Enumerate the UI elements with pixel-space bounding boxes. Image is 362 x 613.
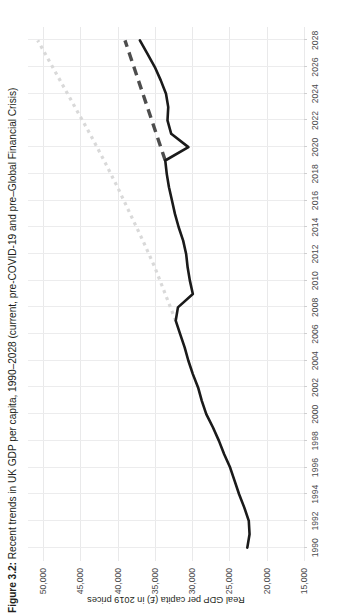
- x-tick-label: 2006: [310, 325, 320, 344]
- x-tick-mark: [304, 333, 307, 334]
- y-tick-label: 40,000: [113, 568, 123, 594]
- x-tick-mark: [304, 360, 307, 361]
- x-tick-label: 1998: [310, 431, 320, 450]
- y-axis-label: Real GDP per capita (£) in 2019 prices: [28, 593, 304, 607]
- x-tick-label: 2000: [310, 405, 320, 424]
- data-series: [28, 27, 304, 561]
- x-tick-mark: [304, 547, 307, 548]
- x-tick-label: 2028: [310, 31, 320, 50]
- x-tick-label: 2018: [310, 164, 320, 183]
- y-tick-label: 45,000: [75, 568, 85, 594]
- x-tick-mark: [304, 119, 307, 120]
- x-tick-label: 1996: [310, 458, 320, 477]
- series-line-actual: [140, 40, 250, 547]
- x-tick-mark: [304, 93, 307, 94]
- x-tick-label: 1992: [310, 511, 320, 530]
- x-tick-mark: [304, 200, 307, 201]
- plot-area: 50,00045,00040,00035,00030,00025,00020,0…: [28, 27, 304, 561]
- x-tick-label: 2024: [310, 84, 320, 103]
- figure-3-2: Figure 3.2: Recent trends in UK GDP per …: [0, 0, 362, 613]
- series-line-pre-covid: [125, 40, 165, 160]
- figure-title-text: Recent trends in UK GDP per capita, 1990…: [7, 88, 18, 562]
- x-tick-mark: [304, 226, 307, 227]
- series-line-pre-gfc: [38, 40, 176, 320]
- x-tick-label: 2022: [310, 111, 320, 130]
- y-tick-label: 15,000: [299, 568, 309, 594]
- gridline-y: [304, 27, 305, 561]
- figure-number: Figure 3.2:: [7, 562, 18, 613]
- x-tick-mark: [304, 66, 307, 67]
- x-tick-label: 2020: [310, 138, 320, 157]
- x-tick-mark: [304, 253, 307, 254]
- x-tick-mark: [304, 440, 307, 441]
- x-tick-label: 2014: [310, 218, 320, 237]
- x-tick-mark: [304, 280, 307, 281]
- x-tick-mark: [304, 386, 307, 387]
- x-tick-label: 2012: [310, 244, 320, 263]
- x-tick-mark: [304, 413, 307, 414]
- x-tick-label: 2008: [310, 298, 320, 317]
- x-tick-label: 2010: [310, 271, 320, 290]
- x-tick-label: 2002: [310, 378, 320, 397]
- y-tick-label: 30,000: [187, 568, 197, 594]
- x-tick-mark: [304, 39, 307, 40]
- y-tick-label: 50,000: [38, 568, 48, 594]
- x-tick-label: 2004: [310, 351, 320, 370]
- x-tick-mark: [304, 467, 307, 468]
- x-tick-label: 1990: [310, 538, 320, 557]
- x-tick-mark: [304, 493, 307, 494]
- y-tick-label: 20,000: [262, 568, 272, 594]
- x-tick-mark: [304, 173, 307, 174]
- x-tick-label: 2026: [310, 58, 320, 77]
- y-axis-label-text: Real GDP per capita (£) in 2019 prices: [87, 595, 245, 605]
- x-tick-label: 1994: [310, 485, 320, 504]
- x-tick-label: 2016: [310, 191, 320, 210]
- y-tick-label: 25,000: [224, 568, 234, 594]
- figure-title: Figure 3.2: Recent trends in UK GDP per …: [6, 0, 19, 613]
- x-tick-mark: [304, 306, 307, 307]
- x-tick-mark: [304, 146, 307, 147]
- rotated-figure-wrapper: Figure 3.2: Recent trends in UK GDP per …: [0, 0, 362, 613]
- x-tick-mark: [304, 520, 307, 521]
- y-tick-label: 35,000: [150, 568, 160, 594]
